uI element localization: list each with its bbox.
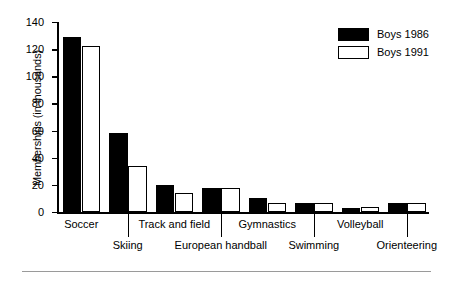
y-axis-tick: 40 (52, 158, 57, 159)
legend-item: Boys 1991 (338, 43, 429, 61)
chart-legend: Boys 1986 Boys 1991 (338, 25, 429, 61)
x-axis-category-label: Volleyball (337, 218, 383, 230)
x-axis-line (57, 212, 429, 214)
y-axis-tick: 120 (52, 49, 57, 50)
bar (175, 193, 194, 212)
bar-group (202, 22, 240, 212)
y-axis-tick-label: 40 (32, 152, 44, 164)
y-axis-tick-label: 60 (32, 125, 44, 137)
bar (314, 203, 333, 213)
y-axis-tick-label: 100 (26, 70, 44, 82)
legend-item: Boys 1986 (338, 25, 429, 43)
x-axis-category-label: Soccer (64, 218, 98, 230)
y-axis-tick: 60 (52, 131, 57, 132)
bar (221, 188, 240, 212)
bar (202, 188, 221, 212)
bar (63, 37, 82, 212)
x-axis-category-label: Swimming (288, 239, 339, 251)
legend-label-boys-1991: Boys 1991 (377, 46, 429, 58)
y-axis-tick-label: 140 (26, 16, 44, 28)
bar (249, 198, 268, 212)
bar (82, 46, 101, 212)
x-axis-category-label: European handball (175, 239, 267, 251)
y-axis-tick: 80 (52, 103, 57, 104)
y-axis-line (57, 22, 59, 212)
bar-group (295, 22, 333, 212)
legend-label-boys-1986: Boys 1986 (377, 28, 429, 40)
x-axis-category-label: Skiing (113, 239, 143, 251)
category-leader-line (128, 212, 129, 237)
bar (156, 185, 175, 212)
bar (128, 166, 147, 212)
bar (342, 208, 361, 212)
footer-divider (22, 271, 431, 272)
bar (361, 207, 380, 212)
bar-chart-figure: Memberships (in thousands) 0204060801001… (0, 0, 453, 282)
y-axis-tick: 20 (52, 185, 57, 186)
y-axis-tick-label: 80 (32, 97, 44, 109)
bar-group (156, 22, 194, 212)
category-leader-line (314, 212, 315, 237)
bar (268, 203, 287, 213)
category-leader-line (221, 212, 222, 237)
y-axis-tick: 0 (52, 212, 57, 213)
y-axis-tick-label: 0 (38, 206, 44, 218)
legend-swatch-boys-1991 (338, 46, 369, 59)
y-axis-tick-label: 20 (32, 179, 44, 191)
bar-group (63, 22, 101, 212)
bar-group (109, 22, 147, 212)
bar (407, 203, 426, 213)
legend-swatch-boys-1986 (338, 28, 369, 41)
bar (388, 203, 407, 213)
y-axis-tick-label: 120 (26, 43, 44, 55)
x-axis-category-label: Track and field (138, 218, 210, 230)
x-axis-category-label: Gymnastics (239, 218, 296, 230)
y-axis-tick: 140 (52, 22, 57, 23)
category-leader-line (407, 212, 408, 237)
bar (109, 133, 128, 212)
y-axis-tick: 100 (52, 76, 57, 77)
bar (295, 203, 314, 213)
bar-group (249, 22, 287, 212)
x-axis-category-label: Orienteering (376, 239, 437, 251)
